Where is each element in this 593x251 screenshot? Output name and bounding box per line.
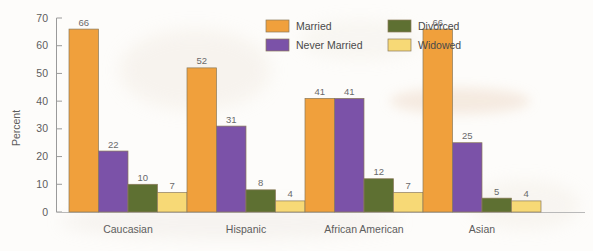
bar[interactable] [364,179,394,212]
bar[interactable] [69,29,99,212]
bar-value-label: 41 [314,86,325,97]
y-axis-title: Percent [10,110,22,146]
y-tick-label: 10 [36,178,48,190]
bar[interactable] [335,98,365,212]
legend-label[interactable]: Never Married [296,39,363,51]
y-tick-label: 70 [36,12,48,24]
legend-label[interactable]: Married [296,20,332,32]
bar-value-label: 4 [524,188,529,199]
bar-value-label: 5 [494,186,499,197]
category-label: Asian [469,223,495,235]
bar-value-label: 8 [258,177,263,188]
bar-series-group [69,29,541,212]
bar[interactable] [158,193,188,212]
y-tick-label: 50 [36,67,48,79]
bar[interactable] [187,68,217,212]
y-axis: 010203040506070 Percent [10,12,62,218]
bar[interactable] [453,143,483,212]
y-tick-label: 40 [36,95,48,107]
legend-swatch [266,39,289,51]
bar-value-label: 12 [373,166,384,177]
y-tick-label: 20 [36,150,48,162]
bar-value-label: 7 [406,180,411,191]
bar[interactable] [246,190,276,212]
bar[interactable] [512,201,542,212]
bar-value-label: 52 [196,55,207,66]
bar[interactable] [217,126,247,212]
category-label: African American [324,223,404,235]
legend-swatch [388,39,411,51]
category-label: Hispanic [226,223,266,235]
category-label: Caucasian [103,223,153,235]
category-labels: CaucasianHispanicAfrican AmericanAsian [103,223,495,235]
y-tick-label: 30 [36,122,48,134]
bar[interactable] [99,151,129,212]
bar[interactable] [482,198,512,212]
legend-swatch [266,20,289,32]
bar[interactable] [276,201,306,212]
bar[interactable] [394,193,424,212]
bar[interactable] [305,98,335,212]
bar-value-label: 41 [344,86,355,97]
y-tick-label: 60 [36,39,48,51]
y-tick-labels: 010203040506070 [36,12,48,218]
bar-value-label: 22 [108,139,119,150]
grouped-bar-chart: 010203040506070 Percent 6622107523184414… [0,0,593,251]
bar[interactable] [128,184,158,212]
bar-value-label: 7 [170,180,175,191]
legend-label[interactable]: Widowed [418,39,461,51]
y-tick-marks [57,18,63,212]
legend-label[interactable]: Divorced [418,20,460,32]
bar-value-label: 25 [462,130,473,141]
bar-value-label: 66 [78,17,89,28]
y-tick-label: 0 [42,206,48,218]
bar[interactable] [423,29,453,212]
bar-value-label: 10 [137,172,148,183]
bar-value-label: 4 [288,188,293,199]
legend-swatch [388,20,411,32]
bar-value-label: 31 [226,114,237,125]
